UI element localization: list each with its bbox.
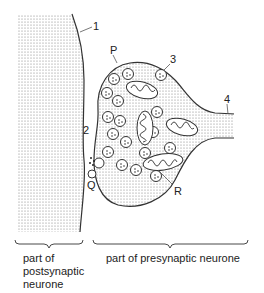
mitochondrion <box>137 111 153 145</box>
label-2: 2 <box>83 124 89 136</box>
brace-presynaptic <box>93 240 248 248</box>
label-1: 1 <box>93 20 99 32</box>
vesicle-Q <box>88 170 96 178</box>
caption-postsynaptic: part of postsynaptic neurone <box>23 252 84 291</box>
synapse-diagram: 1 P 3 4 2 Q R <box>0 0 264 293</box>
label-R: R <box>174 185 182 197</box>
brace-postsynaptic <box>15 240 83 248</box>
fusing-vesicle <box>94 158 104 168</box>
label-Q: Q <box>87 179 96 191</box>
postsynaptic-neurone <box>18 14 85 232</box>
caption-presynaptic: part of presynaptic neurone <box>106 252 240 265</box>
label-3: 3 <box>170 53 176 65</box>
label-4: 4 <box>224 93 230 105</box>
label-P: P <box>110 44 117 56</box>
